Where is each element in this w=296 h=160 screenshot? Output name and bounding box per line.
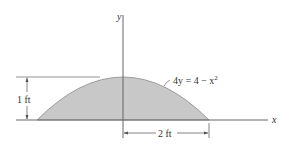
arrow-right-icon bbox=[204, 132, 209, 135]
curve-equation-main: 4y = 4 − x bbox=[173, 75, 214, 86]
x-axis-label: x bbox=[271, 114, 277, 125]
curve-equation-exponent: 2 bbox=[214, 74, 218, 82]
width-label: 2 ft bbox=[158, 128, 172, 139]
height-label: 1 ft bbox=[17, 94, 31, 105]
diagram-canvas: 1 ft 2 ft y x 4y = 4 − x2 bbox=[0, 0, 296, 160]
y-axis-label: y bbox=[116, 11, 122, 22]
arrow-left-icon bbox=[124, 132, 129, 135]
curve-equation: 4y = 4 − x2 bbox=[173, 74, 218, 86]
arrow-up-icon bbox=[26, 78, 29, 83]
equation-leader-line bbox=[164, 80, 170, 86]
arrow-down-icon bbox=[26, 115, 29, 120]
